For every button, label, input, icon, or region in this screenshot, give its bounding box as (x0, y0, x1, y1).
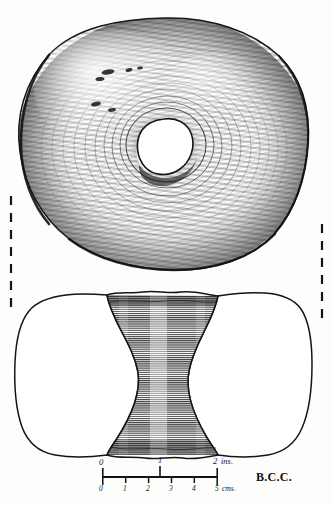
cross-section-group (15, 290, 312, 462)
scale-cm-unit-label: cms. (222, 484, 236, 493)
scale-bar-inch-ticks (103, 466, 217, 477)
scale-cm-tick-2: 2 (146, 484, 150, 493)
scale-inch-tick-1: 1 (158, 455, 162, 465)
scale-bar-cm-ticks (103, 477, 217, 485)
scale-inch-tick-0: 0 (99, 457, 103, 467)
scale-bar-graphic (102, 466, 218, 485)
scale-cm-tick-3: 3 (169, 484, 173, 493)
archaeological-figure: 0 1 2 ins. 0 1 2 3 4 5 cms. B.C.C. (0, 0, 331, 505)
scale-cm-tick-4: 4 (192, 484, 196, 493)
plan-perforation (137, 119, 193, 175)
scale-cm-tick-1: 1 (123, 484, 127, 493)
scale-cm-tick-0: 0 (99, 484, 103, 493)
figure-drawing (0, 0, 331, 505)
scale-inch-tick-2: 2 (213, 456, 217, 466)
scale-inch-unit-label: ins. (221, 456, 233, 466)
plan-view-group (10, 10, 322, 280)
artist-initials: B.C.C. (256, 470, 292, 485)
scale-cm-tick-5: 5 (215, 484, 219, 493)
